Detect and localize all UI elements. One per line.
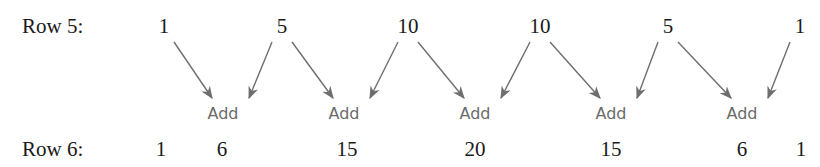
- arrow-left-to-add-5: [678, 42, 731, 98]
- arrow-left-to-add-3: [418, 42, 464, 98]
- arrow-left-to-add-2: [292, 42, 333, 98]
- row6-value: 20: [465, 137, 486, 162]
- arrow-left-to-add-1: [174, 42, 212, 98]
- add-label: Add: [329, 104, 360, 123]
- row6-value: 15: [601, 137, 622, 162]
- arrow-right-to-add-2: [370, 42, 398, 98]
- arrow-right-to-add-5: [768, 42, 790, 98]
- arrow-right-to-add-1: [249, 42, 272, 98]
- row5-value: 1: [795, 14, 806, 39]
- pascal-diagram: Row 5: Row 6: 1 5 10 10 5 1 Add Add Add …: [0, 0, 820, 167]
- row5-value: 5: [277, 14, 288, 39]
- row5-label: Row 5:: [22, 14, 83, 39]
- add-label: Add: [727, 104, 758, 123]
- add-label: Add: [460, 104, 491, 123]
- add-label: Add: [596, 104, 627, 123]
- row6-value: 1: [796, 137, 807, 162]
- row5-value: 1: [159, 14, 170, 39]
- arrow-right-to-add-4: [637, 42, 658, 98]
- row5-value: 10: [530, 14, 551, 39]
- row5-value: 10: [398, 14, 419, 39]
- row6-value: 1: [156, 137, 167, 162]
- arrow-right-to-add-3: [501, 42, 530, 98]
- add-label: Add: [208, 104, 239, 123]
- row6-label: Row 6:: [22, 137, 83, 162]
- row5-value: 5: [663, 14, 674, 39]
- row6-value: 6: [217, 137, 228, 162]
- row6-value: 15: [337, 137, 358, 162]
- row6-value: 6: [737, 137, 748, 162]
- arrow-left-to-add-4: [550, 42, 600, 98]
